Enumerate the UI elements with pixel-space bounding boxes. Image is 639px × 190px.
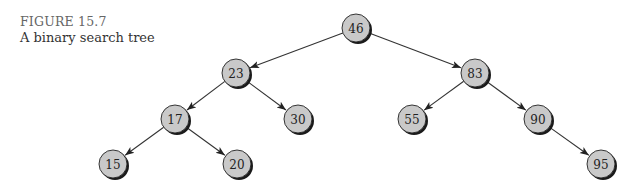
tree-nodes: 46238317305590152095 [99, 14, 617, 180]
node-label: 46 [348, 22, 363, 36]
node-label: 90 [530, 113, 545, 127]
node-label: 15 [105, 158, 120, 172]
binary-search-tree-diagram: 46238317305590152095 [0, 0, 639, 190]
edge-17-to-20 [186, 127, 225, 155]
tree-node-95: 95 [587, 150, 617, 180]
edge-23-to-17 [187, 81, 225, 110]
node-label: 95 [593, 158, 608, 172]
node-label: 83 [467, 67, 482, 81]
tree-node-55: 55 [398, 105, 428, 135]
tree-node-90: 90 [524, 105, 554, 135]
edge-46-to-23 [250, 33, 343, 68]
tree-edges [125, 33, 589, 155]
node-label: 55 [404, 113, 419, 127]
edge-17-to-15 [125, 127, 164, 155]
edge-83-to-90 [486, 81, 526, 110]
tree-node-23: 23 [222, 59, 252, 89]
edge-23-to-30 [247, 81, 286, 110]
tree-node-46: 46 [342, 14, 372, 44]
tree-node-30: 30 [284, 105, 314, 135]
edge-83-to-55 [424, 81, 464, 110]
node-label: 30 [290, 113, 305, 127]
node-label: 17 [167, 113, 182, 127]
tree-node-83: 83 [461, 59, 491, 89]
node-label: 23 [228, 67, 243, 81]
tree-node-15: 15 [99, 150, 129, 180]
tree-node-20: 20 [223, 150, 253, 180]
edge-90-to-95 [549, 127, 588, 155]
tree-node-17: 17 [161, 105, 191, 135]
node-label: 20 [229, 158, 244, 172]
edge-46-to-83 [369, 33, 461, 68]
